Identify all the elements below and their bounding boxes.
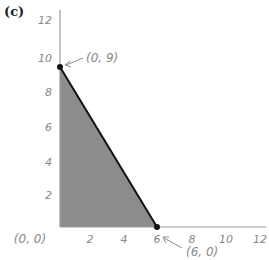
x-tick-labels: 2 4 6 8 10 12: [87, 233, 268, 246]
x-tick: 4: [121, 233, 128, 246]
vertex-point: [154, 224, 160, 230]
vertex-point: [57, 64, 63, 70]
y-tick: 4: [45, 156, 52, 169]
point-label: (0, 9): [86, 51, 118, 65]
annotation-arrow: [66, 58, 83, 65]
chart: (c) 2 4 6 8 10 12 2 4 6 8 10 12 (0, 0) (…: [0, 0, 269, 260]
y-tick: 12: [38, 14, 52, 27]
panel-label: (c): [4, 4, 24, 19]
x-tick: 6: [154, 233, 161, 246]
origin-label: (0, 0): [14, 232, 46, 246]
x-tick: 2: [87, 233, 94, 246]
y-tick: 2: [45, 189, 52, 202]
y-tick: 8: [45, 86, 52, 99]
annotation-arrow: [164, 238, 182, 248]
y-tick-labels: 2 4 6 8 10 12: [38, 14, 52, 202]
y-tick: 6: [45, 121, 52, 134]
point-label: (6, 0): [186, 245, 218, 259]
y-tick: 10: [38, 52, 52, 65]
x-tick: 10: [219, 233, 233, 246]
x-tick: 12: [253, 233, 267, 246]
